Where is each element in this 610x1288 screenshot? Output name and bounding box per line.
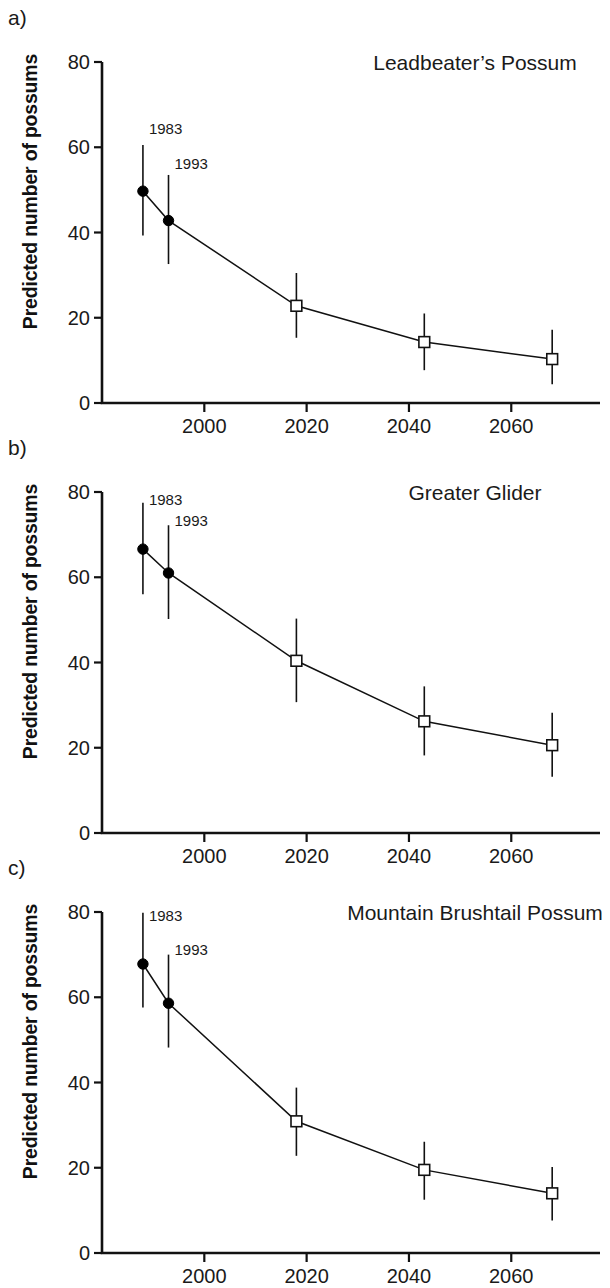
series-line xyxy=(143,549,552,745)
x-tick-label: 2060 xyxy=(489,1265,534,1287)
x-tick-label: 2000 xyxy=(182,1265,227,1287)
chart-svg-b: 020406080200020202040206019831993Greater… xyxy=(60,452,600,852)
data-point-open[interactable] xyxy=(291,655,302,666)
y-tick-label: 0 xyxy=(79,1242,90,1264)
x-tick-label: 2040 xyxy=(387,1265,432,1287)
data-point-filled[interactable] xyxy=(138,544,148,554)
y-tick-label: 80 xyxy=(68,901,90,923)
y-tick-label: 80 xyxy=(68,481,90,503)
point-annotation: 1993 xyxy=(175,941,208,958)
data-point-open[interactable] xyxy=(547,1188,558,1199)
plot-area-b: 020406080200020202040206019831993Greater… xyxy=(60,452,600,852)
data-point-filled[interactable] xyxy=(163,568,173,578)
panel-leadbeaters-possum: a) Predicted number of possums 020406080… xyxy=(0,0,610,430)
data-point-open[interactable] xyxy=(547,354,558,365)
y-tick-label: 60 xyxy=(68,566,90,588)
point-annotation: 1993 xyxy=(175,155,208,172)
y-tick-label: 20 xyxy=(68,307,90,329)
data-point-open[interactable] xyxy=(419,1164,430,1175)
chart-axes xyxy=(102,492,600,833)
y-tick-label: 80 xyxy=(68,51,90,73)
data-point-open[interactable] xyxy=(291,1116,302,1127)
series-title: Leadbeater’s Possum xyxy=(373,51,577,74)
data-point-open[interactable] xyxy=(291,300,302,311)
plot-area-a: 020406080200020202040206019831993Leadbea… xyxy=(60,22,600,422)
data-point-filled[interactable] xyxy=(138,186,148,196)
y-tick-label: 40 xyxy=(68,1072,90,1094)
y-axis-label-a: Predicted number of possums xyxy=(19,12,42,372)
y-tick-label: 20 xyxy=(68,1157,90,1179)
point-annotation: 1983 xyxy=(149,907,182,924)
y-tick-label: 40 xyxy=(68,652,90,674)
y-tick-label: 60 xyxy=(68,986,90,1008)
chart-svg-a: 020406080200020202040206019831993Leadbea… xyxy=(60,22,600,422)
y-tick-label: 0 xyxy=(79,392,90,414)
data-point-filled[interactable] xyxy=(163,998,173,1008)
y-tick-label: 60 xyxy=(68,136,90,158)
series-line xyxy=(143,191,552,359)
y-tick-label: 0 xyxy=(79,822,90,844)
y-axis-label-b: Predicted number of possums xyxy=(19,442,42,802)
data-point-open[interactable] xyxy=(547,740,558,751)
y-tick-label: 40 xyxy=(68,222,90,244)
y-axis-label-c: Predicted number of possums xyxy=(19,862,42,1222)
data-point-open[interactable] xyxy=(419,716,430,727)
data-point-open[interactable] xyxy=(419,337,430,348)
data-point-filled[interactable] xyxy=(163,215,173,225)
series-title: Greater Glider xyxy=(408,481,541,504)
data-point-filled[interactable] xyxy=(138,959,148,969)
chart-axes xyxy=(102,62,600,403)
series-line xyxy=(143,964,552,1193)
x-tick-label: 2020 xyxy=(284,1265,329,1287)
point-annotation: 1983 xyxy=(149,491,182,508)
chart-svg-c: 020406080200020202040206019831993Mountai… xyxy=(60,872,600,1272)
panel-mountain-brushtail-possum: c) Predicted number of possums 020406080… xyxy=(0,850,610,1288)
series-title: Mountain Brushtail Possum xyxy=(347,901,603,924)
panel-greater-glider: b) Predicted number of possums 020406080… xyxy=(0,430,610,850)
plot-area-c: 020406080200020202040206019831993Mountai… xyxy=(60,872,600,1272)
y-tick-label: 20 xyxy=(68,737,90,759)
point-annotation: 1993 xyxy=(175,512,208,529)
chart-axes xyxy=(102,912,600,1253)
point-annotation: 1983 xyxy=(149,120,182,137)
